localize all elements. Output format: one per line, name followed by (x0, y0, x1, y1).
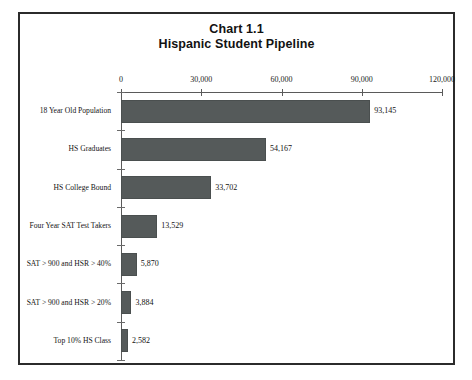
x-axis-tick-label: 0 (119, 75, 123, 84)
y-axis-tick (117, 322, 125, 323)
category-label: Four Year SAT Test Takers (30, 222, 111, 230)
bar[interactable] (121, 100, 370, 123)
y-axis-tick (117, 207, 125, 208)
bar-value-label: 93,145 (374, 107, 396, 115)
y-axis-tick (117, 169, 125, 170)
x-axis-tick-label: 30,000 (190, 75, 212, 84)
category-label: SAT > 900 and HSR > 20% (27, 299, 111, 307)
category-label: Top 10% HS Class (54, 337, 111, 345)
x-axis-tick-label: 120,000 (429, 75, 455, 84)
category-label: HS College Bound (54, 184, 111, 192)
bar[interactable] (121, 176, 211, 199)
bar-value-label: 2,582 (132, 337, 150, 345)
bar[interactable] (121, 138, 266, 161)
x-axis-tick (282, 89, 283, 96)
chart-subtitle: Hispanic Student Pipeline (20, 37, 453, 52)
category-label: HS Graduates (69, 145, 111, 153)
bar-value-label: 13,529 (161, 222, 183, 230)
bar-value-label: 33,702 (215, 184, 237, 192)
y-axis-tick (117, 92, 125, 93)
x-axis-tick (362, 89, 363, 96)
category-label: SAT > 900 and HSR > 40% (27, 260, 111, 268)
x-axis-tick (201, 89, 202, 96)
y-axis-tick (117, 283, 125, 284)
bar[interactable] (121, 215, 157, 238)
y-axis-tick (117, 130, 125, 131)
chart-title: Chart 1.1 (20, 22, 453, 37)
chart-title-block: Chart 1.1 Hispanic Student Pipeline (20, 22, 453, 52)
bar-value-label: 3,884 (135, 299, 153, 307)
category-label: 18 Year Old Population (40, 107, 111, 115)
bar-value-label: 5,870 (141, 260, 159, 268)
plot-area: 030,00060,00090,000120,00093,14554,16733… (121, 92, 442, 360)
bar-value-label: 54,167 (270, 145, 292, 153)
bar[interactable] (121, 291, 131, 314)
y-axis-tick (117, 360, 125, 361)
x-axis-tick-label: 90,000 (351, 75, 373, 84)
y-axis-tick (117, 245, 125, 246)
clipped-caption-sliver (22, 371, 452, 380)
category-axis-labels: 18 Year Old PopulationHS GraduatesHS Col… (20, 92, 119, 360)
chart-frame: Chart 1.1 Hispanic Student Pipeline 18 Y… (18, 12, 455, 365)
x-axis-tick (442, 89, 443, 96)
bar[interactable] (121, 329, 128, 352)
x-axis-tick-label: 60,000 (271, 75, 293, 84)
bar[interactable] (121, 253, 137, 276)
